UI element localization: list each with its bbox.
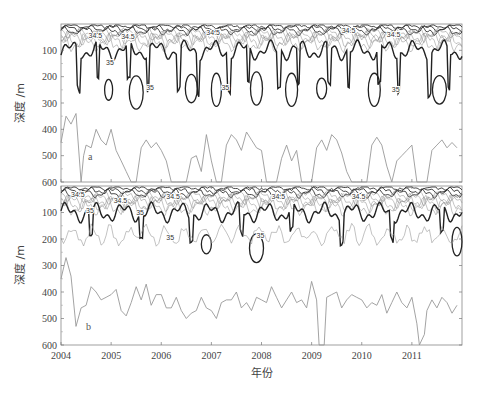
x-tick-label: 2006 [151,350,171,361]
contour-label: 34.5 [387,31,401,38]
x-tick-label: 2009 [302,350,322,361]
y-tick-label: 600 [42,340,57,351]
panel-a: 34.534.534.534.534.535353535 10020030040… [13,24,462,188]
y-tick-label: 300 [42,260,57,271]
x-tick-label: 2010 [352,350,372,361]
y-tick-label: 400 [42,287,57,298]
y-tick-label: 200 [42,234,57,245]
x-tick-label: 2004 [51,350,71,361]
panel-a-frame [61,24,462,182]
panel-b-label: b [86,321,91,332]
y-tick-label: 500 [42,313,57,324]
contour-label: 35 [256,232,264,239]
x-tick-label: 2008 [252,350,272,361]
contour-label: 35 [136,209,144,216]
y-tick-label: 100 [42,207,57,218]
panel-a-label: a [88,151,93,162]
panel-a-y-axis-title: 深度 /m [13,83,27,123]
x-tick-label: 2005 [101,350,121,361]
contour-label: 35 [146,84,154,91]
contour-label: 35 [221,84,229,91]
y-tick-label: 600 [42,177,57,188]
contour-label: 34.5 [71,191,85,198]
y-tick-label: 200 [42,71,57,82]
panel-b: 34.534.534.534.534.535353535 10020030040… [13,186,462,351]
contour-label: 34.5 [166,193,180,200]
contour-label: 35 [106,59,114,66]
x-tick-label: 2011 [402,350,422,361]
contour-label: 34.5 [272,193,286,200]
x-tick-label: 2007 [201,350,221,361]
y-tick-label: 400 [42,124,57,135]
figure: 34.534.534.534.534.535353535 10020030040… [0,0,481,400]
contour-label: 35 [86,207,94,214]
contour-label: 34.5 [114,197,128,204]
contour-label: 34.5 [342,27,356,34]
x-axis-title: 年份 [251,366,273,380]
y-tick-label: 100 [42,45,57,56]
y-tick-label: 500 [42,150,57,161]
contour-label: 35 [166,234,174,241]
contour-label: 35 [392,86,400,93]
contour-label: 34.5 [206,29,220,36]
contour-label: 34.5 [121,33,135,40]
panel-b-y-axis-title: 深度 /m [13,245,27,285]
contour-label: 34.5 [89,32,103,39]
contour-label: 34.5 [352,193,366,200]
y-tick-label: 300 [42,98,57,109]
